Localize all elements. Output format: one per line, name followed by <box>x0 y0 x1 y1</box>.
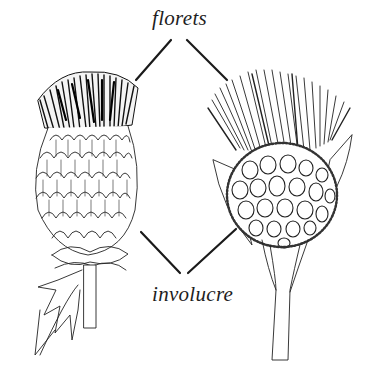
florets-leader-left <box>136 40 171 80</box>
florets-leader-right <box>187 40 227 80</box>
label-involucre: involucre <box>152 282 233 307</box>
involucre-leader-left <box>141 232 180 273</box>
right-involucre <box>227 143 337 248</box>
right-stem <box>262 240 308 360</box>
left-involucre <box>36 126 138 270</box>
left-stem-leaf <box>35 265 96 355</box>
label-florets: florets <box>152 6 207 31</box>
leader-lines <box>136 40 236 273</box>
left-florets <box>38 72 138 130</box>
thistle-diagram <box>0 0 377 383</box>
left-thistle <box>35 72 138 355</box>
involucre-leader-right <box>188 229 236 273</box>
right-thistle <box>208 70 352 360</box>
